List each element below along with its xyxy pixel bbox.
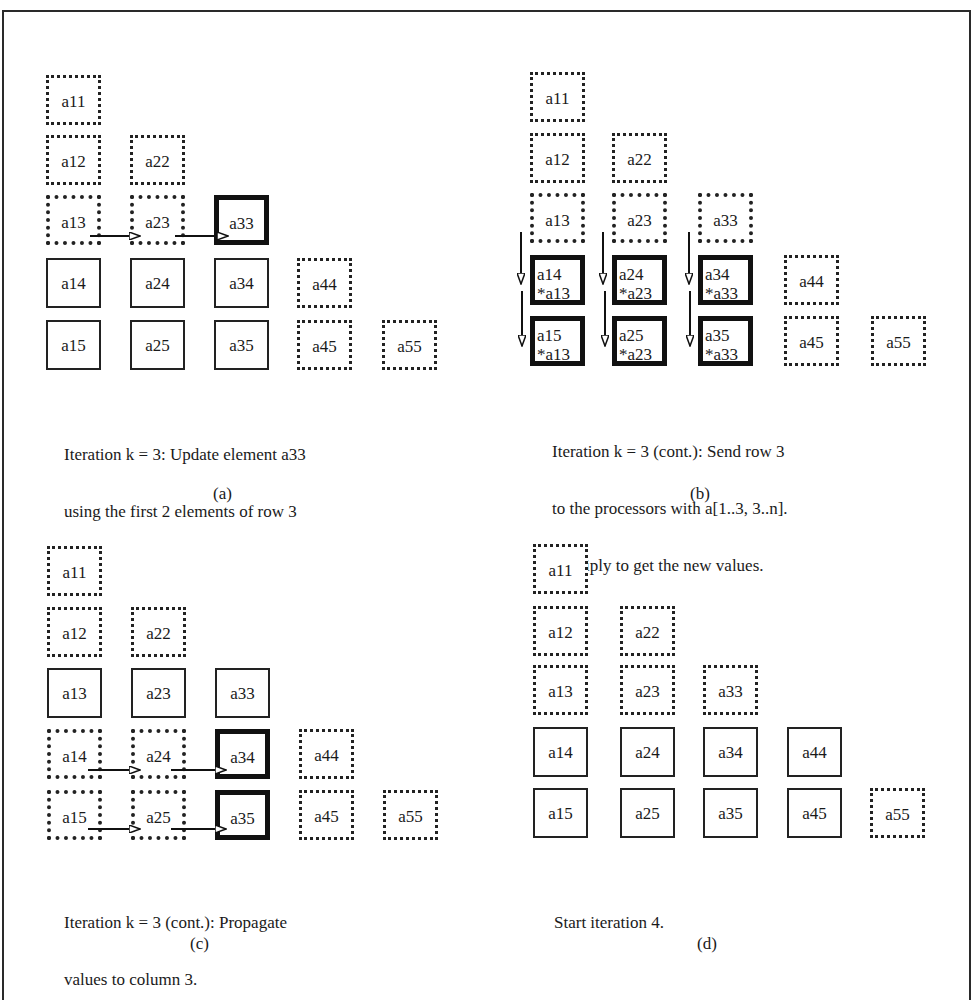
cell-label: a35 *a33 [705,326,748,364]
matrix-cell-a33: a33 [214,195,269,245]
cell-label: a13 [50,214,97,231]
matrix-cell-a13: a13 [46,195,101,245]
matrix-cell-a12: a12 [530,133,585,183]
cell-label: a35 [705,805,756,822]
matrix-cell-a14: a14 *a13 [530,255,585,305]
panel-c-label: (c) [190,934,209,954]
cell-label: a12 [533,151,582,168]
cell-label: a14 [51,748,98,765]
cell-label: a15 [48,337,99,354]
panel-c: a11a12a22a13a23a33a14a24a34a44a15a25a35a… [47,546,447,846]
cell-label: a34 *a33 [705,265,748,303]
matrix-cell-a55: a55 [870,788,925,838]
cell-label: a24 [622,744,673,761]
matrix-cell-a34: a34 *a33 [698,255,753,305]
matrix-cell-a33: a33 [215,668,270,718]
cell-label: a23 [133,685,184,702]
matrix-cell-a14: a14 [47,729,102,779]
matrix-cell-a13: a13 [530,193,585,243]
matrix-cell-a35: a35 [703,788,758,838]
matrix-cell-a11: a11 [46,75,101,125]
caption-line: using the first 2 elements of row 3 [64,502,306,521]
matrix-cell-a23: a23 [612,193,667,243]
cell-label: a35 [216,337,267,354]
cell-label: a55 [873,806,922,823]
matrix-cell-a23: a23 [131,668,186,718]
matrix-cell-a34: a34 [215,729,270,779]
cell-label: a22 [615,151,664,168]
cell-label: a45 [300,338,349,355]
cell-label: a25 [132,337,183,354]
matrix-cell-a11: a11 [47,546,102,596]
matrix-cell-a15: a15 [47,790,102,840]
panel-a-label: (a) [213,484,232,504]
cell-label: a44 [787,273,836,290]
matrix-cell-a22: a22 [131,607,186,657]
cell-label: a12 [49,153,98,170]
cell-label: a45 [302,808,351,825]
caption-line: to the processors with a[1..3, 3..n]. [552,499,788,518]
matrix-cell-a33: a33 [703,665,758,715]
matrix-cell-a23: a23 [130,195,185,245]
matrix-cell-a14: a14 [46,258,101,308]
cell-label: a11 [50,564,99,581]
caption-line: Start iteration 4. [554,913,664,932]
matrix-cell-a24: a24 [620,727,675,777]
cell-label: a23 [134,214,181,231]
matrix-cell-a14: a14 [533,727,588,777]
cell-label: a22 [134,625,183,642]
panel-d: a11a12a22a13a23a33a14a24a34a44a15a25a35a… [533,544,933,844]
cell-label: a55 [386,808,435,825]
matrix-cell-a22: a22 [130,135,185,185]
caption-line: Iteration k = 3 (cont.): Propagate [64,913,287,932]
cell-label: a11 [533,90,582,107]
cell-label: a12 [50,625,99,642]
matrix-cell-a13: a13 [533,665,588,715]
matrix-cell-a45: a45 [784,316,839,366]
cell-label: a55 [385,338,434,355]
cell-label: a34 [216,275,267,292]
cell-label: a15 [51,809,98,826]
cell-label: a33 [217,685,268,702]
matrix-cell-a24: a24 [130,258,185,308]
cell-label: a13 [536,683,585,700]
panel-b-label: (b) [690,484,710,504]
cell-label: a14 [535,744,586,761]
cell-label: a24 [132,275,183,292]
cell-label: a14 [48,275,99,292]
matrix-cell-a25: a25 [620,788,675,838]
matrix-cell-a11: a11 [533,544,588,594]
cell-label: a12 [536,624,585,641]
matrix-cell-a13: a13 [47,668,102,718]
matrix-cell-a15: a15 [46,320,101,370]
cell-label: a13 [534,212,581,229]
caption-line: values to column 3. [64,970,287,989]
matrix-cell-a23: a23 [620,665,675,715]
cell-label: a33 [706,683,755,700]
matrix-cell-a12: a12 [47,607,102,657]
cell-label: a34 [220,749,265,766]
cell-label: a23 [623,683,672,700]
cell-label: a33 [702,212,749,229]
cell-label: a22 [623,624,672,641]
matrix-cell-a35: a35 [215,790,270,840]
matrix-cell-a12: a12 [46,135,101,185]
caption-line: Iteration k = 3 (cont.): Send row 3 [552,442,788,461]
matrix-cell-a22: a22 [612,133,667,183]
cell-label: a11 [536,562,585,579]
matrix-cell-a45: a45 [787,788,842,838]
cell-label: a45 [787,334,836,351]
cell-label: a14 *a13 [537,265,580,303]
matrix-cell-a45: a45 [297,320,352,370]
matrix-cell-a35: a35 [214,320,269,370]
cell-label: a44 [300,276,349,293]
matrix-cell-a55: a55 [871,316,926,366]
matrix-cell-a25: a25 *a23 [612,316,667,366]
cell-label: a23 [616,212,663,229]
cell-label: a15 [535,805,586,822]
cell-label: a25 *a23 [619,326,662,364]
matrix-cell-a15: a15 [533,788,588,838]
panel-a: a11a12a22a13a23a33a14a24a34a44a15a25a35a… [46,75,446,375]
cell-label: a13 [49,685,100,702]
matrix-cell-a15: a15 *a13 [530,316,585,366]
